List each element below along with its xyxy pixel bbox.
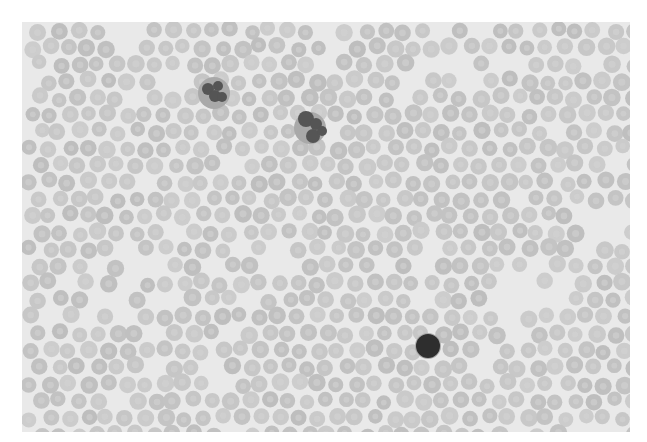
- erythrocyte: [206, 428, 222, 432]
- erythrocyte: [528, 428, 545, 432]
- erythrocyte: [34, 428, 50, 432]
- erythrocyte: [625, 393, 630, 409]
- erythrocyte: [627, 59, 630, 74]
- erythrocyte: [626, 23, 630, 39]
- erythrocyte: [625, 325, 630, 342]
- erythrocyte: [627, 157, 630, 172]
- erythrocyte: [245, 427, 260, 432]
- erythrocyte: [72, 429, 87, 432]
- erythrocyte: [147, 427, 162, 432]
- erythrocyte: [455, 428, 470, 432]
- erythrocyte: [282, 427, 298, 432]
- erythrocyte: [625, 289, 630, 306]
- erythrocyte: [470, 429, 485, 432]
- cell-field: [22, 22, 630, 432]
- leukocyte-1: [198, 77, 230, 109]
- erythrocyte: [50, 428, 66, 432]
- erythrocyte: [625, 258, 630, 274]
- blood-smear-micrograph: [22, 22, 630, 432]
- erythrocyte: [625, 359, 630, 377]
- erythrocyte: [491, 426, 509, 432]
- erythrocyte: [625, 192, 630, 209]
- erythrocyte: [626, 426, 630, 432]
- leukocyte-3: [415, 333, 441, 359]
- erythrocyte: [625, 90, 630, 107]
- erythrocyte: [360, 429, 376, 432]
